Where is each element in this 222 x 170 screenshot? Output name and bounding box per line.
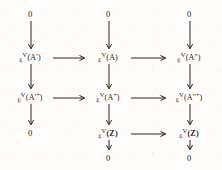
vee-superscript: V <box>101 50 106 57</box>
vertical-arrow <box>27 104 34 125</box>
horizontal-arrow <box>131 130 166 137</box>
zero-object: 0 <box>187 154 191 163</box>
zero-object: 0 <box>28 129 32 138</box>
object-node: εV(Z) <box>98 129 118 138</box>
object-node: εV(A'') <box>177 53 200 62</box>
plus-superscript: + <box>113 92 116 98</box>
zero-object: 0 <box>106 154 110 163</box>
vertical-arrow <box>186 104 193 125</box>
vee-superscript: V <box>100 90 105 97</box>
vee-superscript: V <box>183 126 188 133</box>
object-argument: (A'') <box>186 53 201 62</box>
object-node: εV(Z) <box>179 129 199 138</box>
zero-object: 0 <box>106 10 110 19</box>
object-argument: (A <box>105 93 114 102</box>
horizontal-arrow <box>53 94 85 101</box>
horizontal-arrow <box>131 94 166 101</box>
vertical-arrow <box>186 140 193 150</box>
vee-superscript: V <box>181 50 186 57</box>
vertical-arrow <box>186 21 193 49</box>
zero-object: 0 <box>187 10 191 19</box>
object-node: εV(A''+) <box>176 93 203 102</box>
plus-superscript: + <box>196 92 199 98</box>
vertical-arrow <box>27 64 34 89</box>
object-argument: (Z) <box>107 129 118 138</box>
vertical-arrow <box>105 104 112 125</box>
zero-object: 0 <box>28 10 32 19</box>
object-argument: (Z) <box>188 129 199 138</box>
object-node: εV(A) <box>98 53 118 62</box>
closing-paren: ) <box>199 93 202 102</box>
horizontal-arrow <box>53 54 85 61</box>
object-argument: (A') <box>27 53 40 62</box>
vertical-arrow <box>186 64 193 89</box>
plus-superscript: + <box>36 92 39 98</box>
vee-superscript: V <box>21 90 26 97</box>
vee-superscript: V <box>102 126 107 133</box>
object-argument: (A'' <box>184 93 196 102</box>
commutative-diagram: 000εV(A')εV(A)εV(A'')εV(A'+)εV(A+)εV(A''… <box>0 0 222 170</box>
object-node: εV(A+) <box>96 93 119 102</box>
object-argument: (A' <box>26 93 36 102</box>
object-node: εV(A') <box>19 53 41 62</box>
horizontal-arrow <box>131 54 166 61</box>
vertical-arrow <box>105 21 112 49</box>
vee-superscript: V <box>179 90 184 97</box>
vertical-arrow <box>105 64 112 89</box>
object-node: εV(A'+) <box>17 93 42 102</box>
closing-paren: ) <box>40 93 43 102</box>
object-argument: (A) <box>106 53 118 62</box>
vertical-arrow <box>105 140 112 150</box>
vee-superscript: V <box>23 50 28 57</box>
vertical-arrow <box>27 21 34 49</box>
